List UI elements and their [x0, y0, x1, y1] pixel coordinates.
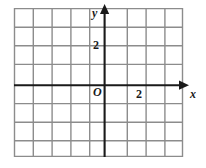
x-axis-label: x [190, 88, 196, 100]
origin-label: O [93, 86, 102, 98]
x-axis-tick-label-2: 2 [136, 88, 142, 100]
y-axis-label: y [92, 7, 97, 19]
x-axis-arrowhead-icon [179, 81, 189, 90]
screenshot-root: y x O 2 2 [0, 0, 206, 168]
y-axis-tick-label-2: 2 [93, 39, 99, 51]
coordinate-plane-figure: y x O 2 2 [0, 0, 206, 168]
coordinate-plane-graphic [0, 0, 206, 168]
grid-background [14, 8, 183, 157]
